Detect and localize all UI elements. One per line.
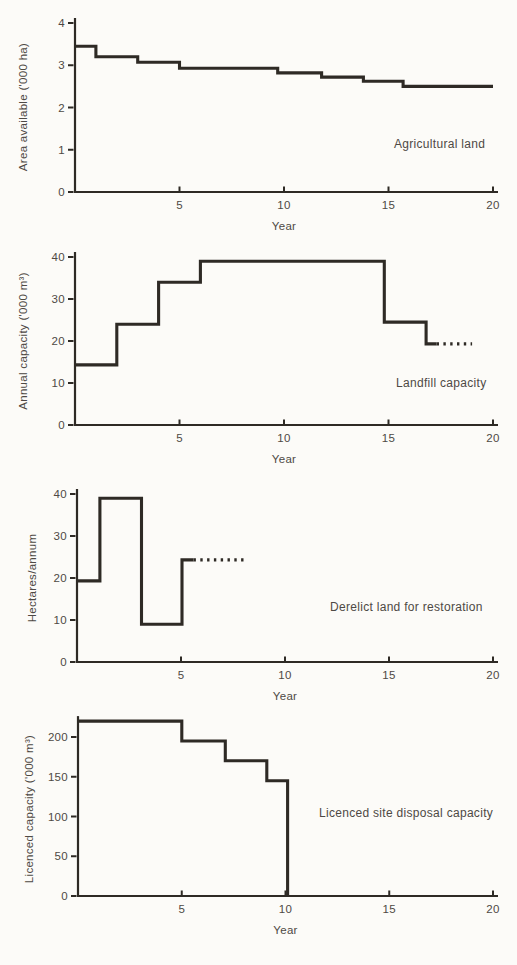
y-tick-label: 50 (55, 850, 68, 862)
y-tick-label: 40 (52, 251, 65, 263)
scanned-chart-page: 510152001234YearArea available ('000 ha)… (0, 0, 517, 965)
x-axis-title: Year (272, 453, 296, 465)
chart-landfill-capacity: 5101520010203040YearAnnual capacity ('00… (0, 235, 517, 470)
y-tick-label: 40 (54, 488, 67, 500)
y-tick-label: 30 (54, 530, 67, 542)
series-line (75, 261, 437, 365)
x-tick-label: 5 (176, 432, 183, 444)
y-tick-label: 0 (61, 890, 68, 902)
y-tick-label: 150 (48, 771, 68, 783)
y-axis-title: Hectares/annum (26, 534, 38, 623)
x-tick-label: 15 (382, 432, 395, 444)
y-tick-label: 200 (48, 731, 68, 743)
x-tick-label: 5 (176, 199, 183, 211)
x-tick-label: 10 (278, 669, 291, 681)
x-tick-label: 15 (383, 903, 396, 915)
x-tick-label: 15 (382, 669, 395, 681)
chart-agricultural-land: 510152001234YearArea available ('000 ha)… (0, 0, 517, 235)
y-tick-label: 0 (60, 656, 67, 668)
y-tick-label: 1 (58, 144, 65, 156)
y-tick-label: 0 (58, 186, 65, 198)
x-tick-label: 20 (486, 432, 499, 444)
y-tick-label: 10 (52, 377, 65, 389)
y-axis-title: Licenced capacity ('000 m³) (23, 735, 35, 883)
y-axis-title: Area available ('000 ha) (17, 43, 29, 171)
chart-licenced-site-disposal: 5101520050100150200YearLicenced capacity… (0, 705, 517, 965)
x-axis-title: Year (273, 690, 297, 702)
y-tick-label: 4 (58, 17, 65, 29)
y-axis-title: Annual capacity ('000 m³) (17, 272, 29, 410)
y-tick-label: 100 (48, 811, 68, 823)
figure-derelict-land-restoration: 5101520010203040YearHectares/annumDereli… (0, 470, 517, 705)
x-tick-label: 5 (178, 903, 185, 915)
series-line (78, 721, 288, 896)
x-tick-label: 10 (279, 903, 292, 915)
x-tick-label: 15 (382, 199, 395, 211)
y-tick-label: 2 (58, 102, 65, 114)
y-tick-label: 0 (58, 419, 65, 431)
chart-annotation: Agricultural land (394, 137, 485, 151)
y-tick-label: 3 (58, 59, 65, 71)
x-tick-label: 20 (486, 903, 499, 915)
y-tick-label: 10 (54, 614, 67, 626)
chart-annotation: Licenced site disposal capacity (319, 806, 493, 820)
series-line (75, 46, 493, 86)
x-tick-label: 10 (277, 432, 290, 444)
chart-annotation: Landfill capacity (396, 376, 486, 390)
x-tick-label: 20 (486, 199, 499, 211)
chart-annotation: Derelict land for restoration (330, 600, 483, 614)
x-axis-title: Year (273, 924, 297, 936)
y-tick-label: 30 (52, 293, 65, 305)
x-tick-label: 20 (486, 669, 499, 681)
figure-agricultural-land: 510152001234YearArea available ('000 ha)… (0, 0, 517, 235)
x-axis-title: Year (272, 220, 296, 232)
chart-derelict-land-restoration: 5101520010203040YearHectares/annumDereli… (0, 470, 517, 705)
x-tick-label: 10 (277, 199, 290, 211)
figure-licenced-site-disposal: 5101520050100150200YearLicenced capacity… (0, 705, 517, 965)
x-tick-label: 5 (178, 669, 185, 681)
figure-landfill-capacity: 5101520010203040YearAnnual capacity ('00… (0, 235, 517, 470)
y-tick-label: 20 (52, 335, 65, 347)
series-line (77, 498, 194, 624)
y-tick-label: 20 (54, 572, 67, 584)
